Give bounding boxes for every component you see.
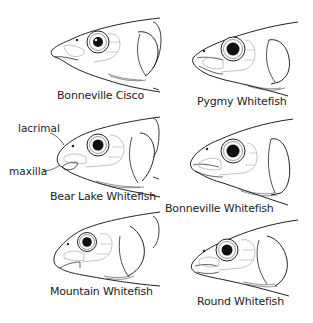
panel-bear-lake-whitefish: lacrimal maxilla Bear Lake Whitefish bbox=[0, 105, 160, 210]
fish-head-drawing-mountain-whitefish bbox=[0, 210, 160, 323]
panel-bonneville-cisco: Bonneville Cisco bbox=[0, 0, 160, 105]
panel-pygmy-whitefish: Pygmy Whitefish bbox=[153, 0, 313, 105]
annotation-lacrimal: lacrimal bbox=[18, 122, 60, 134]
fish-head-drawing-pygmy-whitefish bbox=[153, 0, 313, 105]
fish-head-drawing-bonneville-whitefish bbox=[153, 105, 313, 210]
species-label: Mountain Whitefish bbox=[50, 285, 153, 298]
panel-mountain-whitefish: Mountain Whitefish bbox=[0, 210, 160, 323]
annotation-maxilla: maxilla bbox=[9, 165, 47, 177]
species-label: Bear Lake Whitefish bbox=[50, 190, 156, 203]
panel-round-whitefish: Round Whitefish bbox=[153, 210, 313, 323]
species-label: Bonneville Cisco bbox=[57, 89, 144, 102]
panel-bonneville-whitefish: Bonneville Whitefish bbox=[153, 105, 313, 210]
species-label: Round Whitefish bbox=[197, 295, 284, 308]
